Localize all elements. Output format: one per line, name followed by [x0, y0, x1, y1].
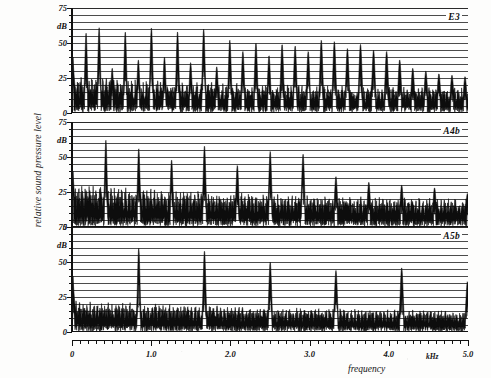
x-axis-minor-tick [365, 340, 366, 344]
x-axis-tick-label: 3.0 [304, 349, 315, 359]
y-axis-minor-tick [69, 150, 72, 151]
y-axis-minor-tick [69, 304, 72, 305]
y-axis-major-tick [67, 78, 72, 79]
x-axis-minor-tick [405, 340, 406, 344]
x-axis-minor-tick [254, 340, 255, 344]
y-axis-minor-tick [69, 15, 72, 16]
x-axis-minor-tick [80, 340, 81, 344]
y-axis-minor-tick [69, 206, 72, 207]
y-axis-tick-label: 50 [59, 257, 68, 267]
y-axis-line [71, 227, 72, 332]
x-axis-major-tick [389, 340, 390, 346]
x-axis-minor-tick [318, 340, 319, 344]
y-axis-minor-tick [69, 325, 72, 326]
x-axis-minor-tick [278, 340, 279, 344]
y-axis-tick-label: 25 [59, 292, 68, 302]
x-axis-minor-tick [191, 340, 192, 344]
y-axis-minor-tick [69, 22, 72, 23]
x-axis-minor-tick [444, 340, 445, 344]
x-axis-minor-tick [413, 340, 414, 344]
y-axis-minor-tick [69, 143, 72, 144]
y-axis-minor-tick [69, 269, 72, 270]
x-axis-minor-tick [215, 340, 216, 344]
plot-area [72, 122, 468, 227]
y-axis-line [71, 8, 72, 113]
x-axis-minor-tick [460, 340, 461, 344]
x-axis-minor-tick [207, 340, 208, 344]
x-axis-minor-tick [88, 340, 89, 344]
y-axis-major-tick [67, 332, 72, 333]
x-axis-minor-tick [199, 340, 200, 344]
x-axis-major-tick [468, 340, 469, 346]
y-axis-tick-label: 50 [59, 38, 68, 48]
spectrum-panel: A4b0255075dB [72, 122, 468, 227]
y-axis-minor-tick [69, 220, 72, 221]
x-axis-minor-tick [159, 340, 160, 344]
y-axis-minor-tick [69, 199, 72, 200]
spectrum-trace [73, 227, 468, 332]
y-axis-minor-tick [69, 241, 72, 242]
x-axis: 01.02.03.04.05.0 kHz frequency [72, 340, 468, 341]
y-axis-minor-tick [69, 92, 72, 93]
x-axis-minor-tick [452, 340, 453, 344]
y-axis-tick-label: 75 [59, 222, 68, 232]
y-axis-minor-tick [69, 106, 72, 107]
y-axis-major-tick [67, 8, 72, 9]
x-axis-minor-tick [373, 340, 374, 344]
panel-label: E3 [446, 12, 462, 22]
x-axis-minor-tick [436, 340, 437, 344]
x-axis-minor-tick [175, 340, 176, 344]
x-axis-minor-tick [302, 340, 303, 344]
y-axis-unit-label: dB [57, 135, 67, 145]
x-axis-tick-label: 0 [70, 349, 74, 359]
x-axis-minor-tick [294, 340, 295, 344]
spectrum-trace [73, 122, 468, 227]
y-axis-minor-tick [69, 129, 72, 130]
y-axis-minor-tick [69, 318, 72, 319]
y-axis-unit-label: dB [57, 240, 67, 250]
x-axis-tick-label: 1.0 [146, 349, 157, 359]
x-axis-minor-tick [120, 340, 121, 344]
y-axis-line [71, 122, 72, 227]
spectrum-panel: E30255075dB [72, 8, 468, 113]
y-axis-major-tick [67, 297, 72, 298]
y-axis-title: relative sound pressure level [33, 70, 43, 270]
x-axis-minor-tick [341, 340, 342, 344]
x-axis-minor-tick [428, 340, 429, 344]
y-axis-tick-label: 25 [59, 73, 68, 83]
y-axis-tick-label: 75 [59, 3, 68, 13]
y-axis-major-tick [67, 43, 72, 44]
y-axis-minor-tick [69, 255, 72, 256]
y-axis-minor-tick [69, 213, 72, 214]
x-axis-minor-tick [222, 340, 223, 344]
y-axis-major-tick [67, 113, 72, 114]
y-axis-minor-tick [69, 36, 72, 37]
x-axis-minor-tick [262, 340, 263, 344]
x-axis-minor-tick [112, 340, 113, 344]
panel-label: A4b [441, 126, 462, 136]
x-axis-minor-tick [96, 340, 97, 344]
x-axis-minor-tick [286, 340, 287, 344]
y-axis-tick-label: 25 [59, 187, 68, 197]
y-axis-minor-tick [69, 136, 72, 137]
spectrum-panel: A5b0255075dB [72, 227, 468, 332]
y-axis-minor-tick [69, 50, 72, 51]
x-axis-tick-label: 2.0 [225, 349, 236, 359]
y-axis-minor-tick [69, 178, 72, 179]
x-axis-minor-tick [143, 340, 144, 344]
plot-area [72, 8, 468, 113]
y-axis-minor-tick [69, 99, 72, 100]
y-axis-tick-label: 50 [59, 152, 68, 162]
x-axis-tick-label: 5.0 [463, 349, 474, 359]
x-axis-minor-tick [349, 340, 350, 344]
y-axis-minor-tick [69, 283, 72, 284]
x-axis-minor-tick [333, 340, 334, 344]
y-axis-minor-tick [69, 164, 72, 165]
x-axis-minor-tick [381, 340, 382, 344]
x-axis-minor-tick [357, 340, 358, 344]
y-axis-minor-tick [69, 311, 72, 312]
y-axis-minor-tick [69, 185, 72, 186]
x-axis-major-tick [310, 340, 311, 346]
y-axis-major-tick [67, 192, 72, 193]
y-axis-major-tick [67, 157, 72, 158]
